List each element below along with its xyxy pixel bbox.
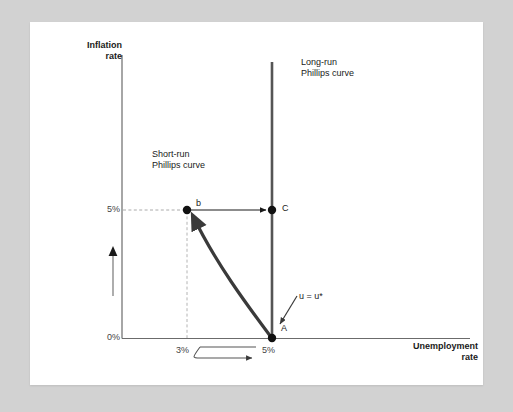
- arrow-natural-rate-pointer: [280, 296, 297, 324]
- x-tick-3-percent: 3%: [176, 345, 196, 356]
- point-b-label: b: [196, 198, 201, 208]
- y-tick-0-percent: 0%: [104, 332, 120, 343]
- point-b-dot: [183, 206, 191, 214]
- natural-rate-annotation: u = u*: [299, 291, 323, 301]
- long-run-curve-label: Long-run Phillips curve: [301, 57, 391, 79]
- point-a-dot: [268, 334, 276, 342]
- y-axis-title: Inflation rate: [62, 40, 122, 62]
- x-tick-5-percent: 5%: [262, 345, 282, 356]
- point-a-label: A: [281, 323, 287, 333]
- x-axis-title: Unemployment rate: [378, 341, 478, 363]
- y-tick-5-percent: 5%: [104, 204, 120, 215]
- point-c-label: C: [282, 203, 289, 213]
- short-run-curve-label: Short-run Phillips curve: [152, 149, 242, 171]
- short-run-phillips-curve: [193, 216, 271, 337]
- point-c-dot: [268, 206, 276, 214]
- arrow-inflation-up-head: [109, 246, 118, 256]
- diagram-page: Inflation rate Unemployment rate Long-ru…: [0, 0, 513, 412]
- arrow-unemployment-3-to-5: [194, 347, 252, 358]
